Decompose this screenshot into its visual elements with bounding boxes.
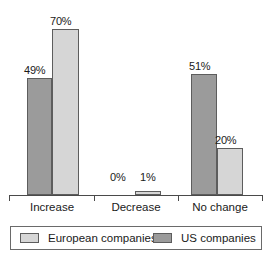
legend-swatch-us-icon — [153, 233, 172, 243]
bar-label-nochange-european: 20% — [215, 135, 236, 146]
category-label-increase: Increase — [10, 201, 94, 214]
bar-label-increase-us: 49% — [24, 65, 45, 76]
category-label-decrease: Decrease — [94, 201, 178, 214]
legend-item-european-companies: European companies — [20, 227, 157, 249]
bar-label-decrease-us: 0% — [110, 172, 126, 183]
bar-increase-european — [52, 29, 79, 195]
bar-chart: 49% 70% 0% 1% 51% 20% Increase Decrease … — [0, 0, 278, 260]
bar-nochange-us — [191, 74, 217, 195]
bar-increase-us — [27, 78, 52, 195]
bar-decrease-european — [135, 191, 161, 195]
bar-label-nochange-us: 51% — [189, 61, 210, 72]
x-axis-tick-end — [262, 196, 263, 201]
legend-label-us-companies: US companies — [181, 232, 256, 245]
bar-label-decrease-european: 1% — [140, 172, 156, 183]
bar-label-increase-european: 70% — [50, 16, 71, 27]
legend-item-us-companies: US companies — [153, 227, 256, 249]
category-label-no-change: No change — [178, 201, 262, 214]
bar-nochange-european — [217, 148, 243, 195]
legend-swatch-european-icon — [20, 233, 39, 243]
chart-legend: European companies US companies — [10, 226, 262, 250]
x-axis-line — [9, 195, 263, 196]
legend-label-european-companies: European companies — [48, 232, 157, 245]
plot-area: 49% 70% 0% 1% 51% 20% Increase Decrease … — [0, 0, 278, 198]
